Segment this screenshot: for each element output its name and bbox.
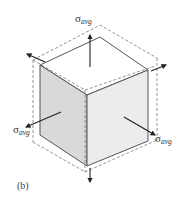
subscript: avg (81, 17, 92, 26)
subscript: avg (161, 137, 172, 146)
label-sigma-left: σavg (13, 124, 30, 137)
arrow-top-right (151, 65, 166, 71)
subscript: avg (19, 128, 30, 137)
figure-caption: (b) (17, 180, 29, 191)
label-sigma-top: σavg (75, 13, 92, 26)
solid-cube (40, 37, 148, 166)
label-sigma-right: σavg (155, 133, 172, 146)
stress-cube-figure: σavg σavg σavg (b) (0, 0, 183, 212)
